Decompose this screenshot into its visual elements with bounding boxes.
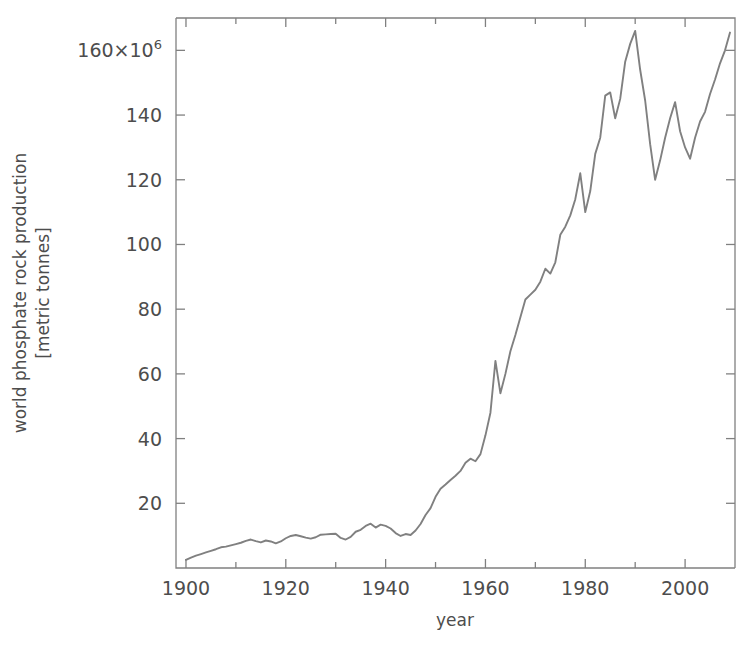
- y-tick-label: 160×106: [77, 37, 162, 61]
- axis-spine-top-right: [176, 18, 735, 568]
- plot-axes: [176, 18, 735, 568]
- y-tick-label: 120: [126, 169, 162, 191]
- x-tick-label: 1980: [561, 577, 609, 599]
- y-tickmarks: [176, 50, 735, 503]
- y-tick-label: 60: [138, 363, 162, 385]
- x-tickmarks: [186, 18, 685, 568]
- y-tick-label: 80: [138, 298, 162, 320]
- y-tick-label: 40: [138, 428, 162, 450]
- data-series-line: [186, 31, 730, 560]
- x-tick-label: 2000: [661, 577, 709, 599]
- x-tick-label: 1960: [461, 577, 509, 599]
- y-tick-labels: 20406080100120140160×106: [77, 37, 162, 514]
- x-tick-label: 1920: [262, 577, 310, 599]
- y-axis-title: world phosphate rock production [metric …: [10, 153, 53, 433]
- y-tick-label: 20: [138, 492, 162, 514]
- x-tick-labels: 190019201940196019802000: [162, 577, 709, 599]
- chart-figure: 20406080100120140160×106 190019201940196…: [0, 0, 752, 649]
- y-tick-label: 140: [126, 104, 162, 126]
- x-tick-label: 1900: [162, 577, 210, 599]
- x-tick-label: 1940: [361, 577, 409, 599]
- y-tick-label: 100: [126, 233, 162, 255]
- x-axis-title: year: [436, 610, 474, 630]
- y-axis-title-line2: [metric tonnes]: [33, 227, 53, 358]
- axis-spine-left-bottom: [176, 18, 735, 568]
- y-axis-title-line1: world phosphate rock production: [10, 153, 30, 433]
